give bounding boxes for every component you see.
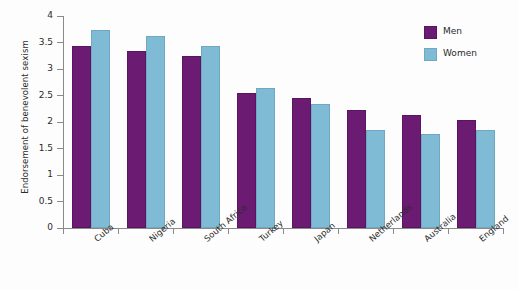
x-tick-mark	[173, 228, 174, 234]
bar-turkey-women	[256, 88, 275, 228]
bar-south-africa-women	[201, 46, 220, 228]
y-tick-mark	[57, 95, 63, 96]
bar-japan-women	[311, 104, 330, 228]
y-tick-label: 2	[0, 116, 53, 126]
bar-netherlands-men	[347, 110, 366, 228]
y-tick-mark	[57, 148, 63, 149]
y-tick-label: 1.5	[0, 143, 53, 153]
x-tick-mark	[63, 228, 64, 234]
x-tick-mark	[228, 228, 229, 234]
bar-england-women	[476, 130, 495, 228]
bar-chart: Endorsement of benevolent sexism 00.511.…	[0, 0, 518, 289]
legend-swatch-men	[424, 26, 437, 39]
legend-swatch-women	[424, 48, 437, 61]
bar-cuba-women	[91, 30, 110, 228]
y-axis-line	[63, 16, 64, 229]
x-tick-mark	[338, 228, 339, 234]
bar-south-africa-men	[182, 56, 201, 228]
x-tick-mark	[503, 228, 504, 234]
bar-nigeria-women	[146, 36, 165, 228]
legend-label-women: Women	[443, 48, 477, 58]
bar-cuba-men	[72, 46, 91, 228]
bar-australia-women	[421, 134, 440, 228]
y-tick-mark	[57, 122, 63, 123]
y-tick-label: 3	[0, 63, 53, 73]
x-tick-mark	[283, 228, 284, 234]
x-tick-mark	[393, 228, 394, 234]
y-tick-label: 0.5	[0, 196, 53, 206]
x-tick-mark	[118, 228, 119, 234]
x-tick-mark	[448, 228, 449, 234]
y-tick-mark	[57, 69, 63, 70]
legend-label-men: Men	[443, 26, 462, 36]
y-tick-label: 0	[0, 222, 53, 232]
y-tick-mark	[57, 175, 63, 176]
bar-netherlands-women	[366, 130, 385, 228]
y-tick-label: 2.5	[0, 90, 53, 100]
bar-england-men	[457, 120, 476, 228]
bar-japan-men	[292, 98, 311, 228]
y-tick-label: 4	[0, 10, 53, 20]
bar-nigeria-men	[127, 51, 146, 228]
y-tick-mark	[57, 16, 63, 17]
y-tick-label: 3.5	[0, 37, 53, 47]
y-tick-mark	[57, 201, 63, 202]
y-tick-mark	[57, 42, 63, 43]
y-tick-label: 1	[0, 169, 53, 179]
